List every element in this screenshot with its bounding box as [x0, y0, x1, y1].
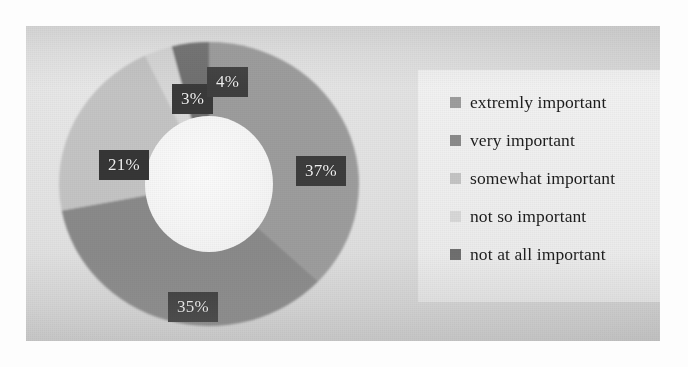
legend-swatch-icon: [450, 211, 461, 222]
legend-item-somewhat-important[interactable]: somewhat important: [450, 160, 660, 196]
legend-item-not-so-important[interactable]: not so important: [450, 198, 660, 234]
legend-item-extremly-important[interactable]: extremly important: [450, 84, 660, 120]
data-label-extremly-important: 37%: [296, 156, 346, 186]
data-label-very-important: 35%: [168, 292, 218, 322]
chart-plate: 37% 35% 21% 3% 4% extremly important ver…: [26, 26, 660, 341]
data-label-not-at-all-important: 4%: [207, 67, 248, 97]
legend-label: somewhat important: [470, 168, 615, 189]
scanned-page: 37% 35% 21% 3% 4% extremly important ver…: [0, 0, 688, 367]
legend-swatch-icon: [450, 249, 461, 260]
data-label-somewhat-important: 21%: [99, 150, 149, 180]
legend-label: very important: [470, 130, 575, 151]
legend-swatch-icon: [450, 97, 461, 108]
legend-item-not-at-all-important[interactable]: not at all important: [450, 236, 660, 272]
donut-hole: [145, 116, 273, 252]
donut-chart: 37% 35% 21% 3% 4%: [44, 34, 374, 334]
legend-label: not at all important: [470, 244, 606, 265]
legend-item-very-important[interactable]: very important: [450, 122, 660, 158]
chart-legend: extremly important very important somewh…: [450, 84, 660, 274]
legend-label: not so important: [470, 206, 586, 227]
legend-swatch-icon: [450, 173, 461, 184]
legend-label: extremly important: [470, 92, 606, 113]
legend-swatch-icon: [450, 135, 461, 146]
